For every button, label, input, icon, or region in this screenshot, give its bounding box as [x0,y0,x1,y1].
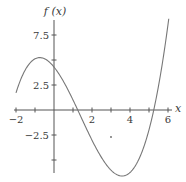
data-point-marker [110,136,112,138]
x-tick-label: 2 [89,114,95,125]
x-tick-label: 4 [127,114,133,125]
x-axis-label: x [175,102,182,115]
annotations [110,136,112,138]
axes [14,20,172,173]
function-curve [16,19,169,176]
y-tick-label: 2.5 [33,80,49,91]
x-tick-label: 6 [165,114,171,125]
x-tick-label: −2 [9,114,24,125]
function-plot: −22467.52.5−2.5 f (x) x [0,0,186,182]
y-axis-label: f (x) [43,5,66,18]
tick-labels: −22467.52.5−2.5 [9,30,172,141]
y-tick-label: 7.5 [33,30,49,41]
y-tick-label: −2.5 [25,130,49,141]
